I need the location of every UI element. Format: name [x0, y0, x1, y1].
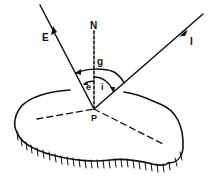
- surface-outline-bottom: [17, 132, 168, 165]
- surface-outline-left: [15, 90, 70, 132]
- phase-angle-label: g: [97, 57, 103, 67]
- surface-dashed-line-left: [37, 109, 94, 119]
- incidence-ray-label: I: [190, 37, 193, 47]
- photometric-angle-diagram: N E I g e i P: [0, 0, 213, 188]
- diagram-drawing: [0, 0, 213, 188]
- surface-dashed-line-right: [94, 109, 165, 145]
- emission-ray-label: E: [42, 33, 49, 43]
- normal-label: N: [90, 21, 97, 31]
- emission-angle-label: e: [86, 83, 91, 92]
- phase-angle-arc: [76, 69, 124, 83]
- surface-outline-right: [124, 92, 183, 163]
- point-label: P: [91, 114, 97, 123]
- incidence-angle-label: i: [101, 83, 104, 92]
- incidence-ray: [94, 14, 203, 109]
